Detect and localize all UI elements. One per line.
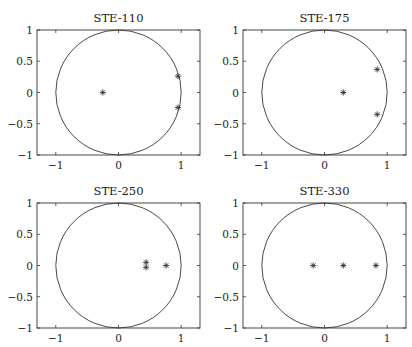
y-tick-label: 0.5 <box>222 55 239 67</box>
y-tick-label: −1 <box>224 149 239 161</box>
x-tick-label: −1 <box>254 159 269 171</box>
subplot-ste-330: STE-330−10110.50−0.5−1 <box>206 173 412 347</box>
plot-area: STE-175−10110.50−0.5−1 <box>206 0 412 174</box>
x-tick-label: −1 <box>254 332 269 344</box>
y-tick-label: 0 <box>26 260 33 272</box>
axes-frame <box>37 203 200 328</box>
y-tick-label: 1 <box>26 24 33 36</box>
subplot-title: STE-175 <box>300 11 350 25</box>
x-tick-label: 1 <box>178 159 185 171</box>
y-tick-label: −0.5 <box>8 291 34 303</box>
plot-area: STE-330−10110.50−0.5−1 <box>206 173 412 347</box>
plot-area: STE-110−10110.50−0.5−1 <box>0 0 206 174</box>
data-point-star-icon <box>373 263 379 269</box>
axes-frame <box>243 30 406 155</box>
data-point-star-icon <box>310 263 316 269</box>
data-point-star-icon <box>100 90 106 96</box>
y-tick-label: 1 <box>26 197 33 209</box>
subplot-ste-250: STE-250−10110.50−0.5−1 <box>0 173 206 347</box>
data-point-star-icon <box>374 111 380 117</box>
data-point-star-icon <box>143 264 149 270</box>
x-tick-label: 0 <box>115 159 122 171</box>
data-point-star-icon <box>340 263 346 269</box>
x-tick-label: 1 <box>384 332 391 344</box>
data-point-star-icon <box>163 263 169 269</box>
y-tick-label: −0.5 <box>214 118 240 130</box>
y-tick-label: −1 <box>18 322 33 334</box>
y-tick-label: −0.5 <box>8 118 34 130</box>
x-tick-label: −1 <box>48 332 63 344</box>
x-tick-label: −1 <box>48 159 63 171</box>
subplot-ste-110: STE-110−10110.50−0.5−1 <box>0 0 206 174</box>
y-tick-label: 0.5 <box>16 55 33 67</box>
unit-circle <box>56 203 181 328</box>
y-tick-label: −1 <box>224 322 239 334</box>
y-tick-label: 0.5 <box>222 228 239 240</box>
subplot-title: STE-250 <box>94 184 144 198</box>
axes-frame <box>243 203 406 328</box>
subplot-ste-175: STE-175−10110.50−0.5−1 <box>206 0 412 174</box>
unit-circle <box>262 30 387 155</box>
subplot-title: STE-110 <box>94 11 144 25</box>
y-tick-label: −1 <box>18 149 33 161</box>
y-tick-label: −0.5 <box>214 291 240 303</box>
axes-frame <box>37 30 200 155</box>
y-tick-label: 0.5 <box>16 228 33 240</box>
y-tick-label: 0 <box>232 87 239 99</box>
data-point-star-icon <box>340 90 346 96</box>
y-tick-label: 0 <box>26 87 33 99</box>
plot-area: STE-250−10110.50−0.5−1 <box>0 173 206 347</box>
unit-circle <box>56 30 181 155</box>
y-tick-label: 1 <box>232 24 239 36</box>
data-point-star-icon <box>374 66 380 72</box>
y-tick-label: 0 <box>232 260 239 272</box>
x-tick-label: 0 <box>321 332 328 344</box>
x-tick-label: 0 <box>321 159 328 171</box>
x-tick-label: 1 <box>178 332 185 344</box>
subplot-title: STE-330 <box>300 184 350 198</box>
unit-circle <box>262 203 387 328</box>
x-tick-label: 1 <box>384 159 391 171</box>
y-tick-label: 1 <box>232 197 239 209</box>
x-tick-label: 0 <box>115 332 122 344</box>
